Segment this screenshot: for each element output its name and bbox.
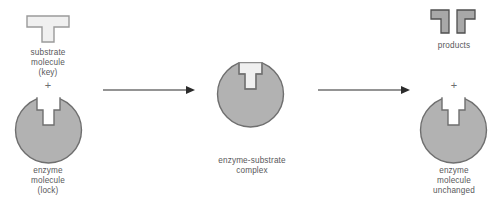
enzyme-label-right: enzyme molecule unchanged [412, 166, 496, 197]
left-plus-sign: + [6, 80, 90, 91]
complex-label: enzyme-substrate complex [194, 156, 310, 176]
products-shapes [430, 9, 478, 35]
enzyme-substrate-complex-shape [215, 60, 286, 129]
products-label: products [412, 41, 496, 51]
substrate-shape [25, 14, 71, 44]
diagram-canvas: substrate molecule (key) + enzyme molecu… [0, 0, 501, 204]
right-plus-sign: + [412, 80, 496, 91]
enzyme-shape-right [418, 96, 489, 165]
reaction-arrow-1 [100, 82, 198, 98]
enzyme-shape-left [13, 96, 84, 165]
substrate-label: substrate molecule (key) [6, 48, 90, 79]
enzyme-label-left: enzyme molecule (lock) [6, 166, 90, 197]
reaction-arrow-2 [315, 82, 413, 98]
